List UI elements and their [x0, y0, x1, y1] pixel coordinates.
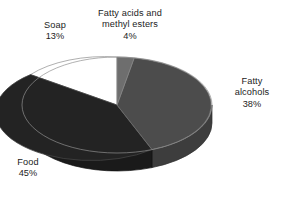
slice-label-fatty-acids: Fatty acids and methyl esters 4%	[84, 8, 176, 42]
slice-label-soap: Soap 13%	[28, 20, 82, 43]
slice-label-fatty-acids-line1: Fatty acids and	[84, 8, 176, 19]
pie-chart-figure: Fatty acids and methyl esters 4% Soap 13…	[0, 0, 286, 197]
slice-label-fatty-alcohols: Fatty alcohols 38%	[222, 76, 282, 110]
slice-value-fatty-alcohols: 38%	[222, 99, 282, 110]
slice-value-food: 45%	[4, 168, 52, 179]
slice-label-fatty-alcohols-line1: Fatty	[222, 76, 282, 87]
slice-label-soap-line1: Soap	[28, 20, 82, 31]
slice-label-food-line1: Food	[4, 157, 52, 168]
slice-label-food: Food 45%	[4, 157, 52, 180]
slice-value-soap: 13%	[28, 31, 82, 42]
slice-value-fatty-acids: 4%	[84, 31, 176, 42]
slice-label-fatty-alcohols-line2: alcohols	[222, 87, 282, 98]
slice-label-fatty-acids-line2: methyl esters	[84, 19, 176, 30]
